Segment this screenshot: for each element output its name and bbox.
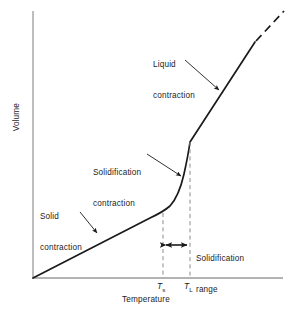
annotation-solidification-contraction-line1: Solidification bbox=[93, 168, 141, 178]
annotation-solidification-range-line2: range bbox=[196, 285, 244, 295]
x-tick-tl-sub: L bbox=[189, 286, 192, 293]
annotation-solidification-contraction: Solidification contraction bbox=[93, 148, 141, 230]
chart-canvas bbox=[0, 0, 292, 325]
curve-liquid-extension bbox=[256, 11, 284, 41]
annotation-liquid-contraction-line2: contraction bbox=[153, 91, 195, 101]
leader-solidification-contraction bbox=[147, 154, 181, 176]
y-axis-label: Volume bbox=[12, 87, 22, 147]
annotation-solidification-contraction-line2: contraction bbox=[93, 199, 141, 209]
annotation-solidification-range-line1: Solidification bbox=[196, 254, 244, 264]
annotation-solidification-range: Solidification range bbox=[196, 234, 244, 316]
annotation-solid-contraction-line2: contraction bbox=[40, 243, 82, 253]
x-axis-label: Temperature bbox=[0, 295, 292, 305]
annotation-liquid-contraction: Liquid contraction bbox=[153, 40, 195, 122]
x-tick-tl: TL bbox=[184, 281, 193, 293]
annotation-liquid-contraction-line1: Liquid bbox=[153, 60, 195, 70]
caption-sliver bbox=[0, 318, 292, 325]
x-tick-ts-sub: s bbox=[162, 286, 165, 293]
figure-volume-vs-temperature: Volume Temperature Ts TL Liquid contract… bbox=[0, 0, 292, 325]
annotation-solid-contraction: Solid contraction bbox=[40, 192, 82, 274]
x-tick-ts: Ts bbox=[157, 281, 165, 293]
annotation-solid-contraction-line1: Solid bbox=[40, 212, 82, 222]
